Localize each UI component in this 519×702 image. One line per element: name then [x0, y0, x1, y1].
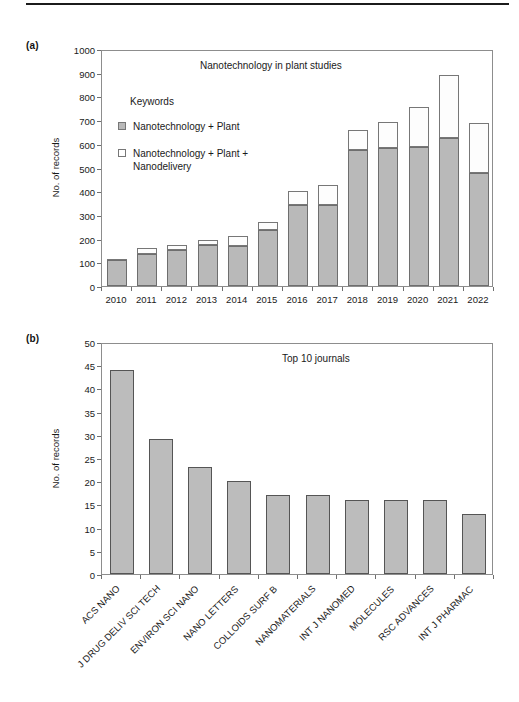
- panel-a-chart-title: Nanotechnology in plant studies: [200, 60, 342, 71]
- panel-a-y-tick-mark: [97, 121, 101, 122]
- panel-b-bar: [266, 495, 290, 574]
- panel-b-y-tick-label: 10: [55, 523, 95, 534]
- panel-a-y-tick-mark: [97, 169, 101, 170]
- panel-b-y-tick-label: 50: [55, 338, 95, 349]
- panel-b-y-tick-mark: [97, 413, 101, 414]
- panel-b-y-tick-mark: [97, 459, 101, 460]
- panel-a-bar: [378, 122, 398, 286]
- panel-a-bar: [137, 248, 157, 286]
- panel-b-y-tick-label: 35: [55, 407, 95, 418]
- panel-b-x-tick-mark: [219, 575, 220, 579]
- panel-b-x-tick-mark: [297, 575, 298, 579]
- top-horizontal-rule: [26, 3, 509, 5]
- panel-b-y-tick-mark: [97, 529, 101, 530]
- panel-a-bar-segment-plant: [137, 254, 157, 286]
- panel-a-x-tick-label: 2020: [407, 294, 428, 305]
- legend-item-nanotech-plant: Nanotechnology + Plant: [118, 120, 348, 133]
- panel-a-bar: [318, 185, 338, 286]
- panel-a-bar-segment-nanodelivery: [378, 122, 398, 148]
- panel-a-x-tick-label: 2012: [166, 294, 187, 305]
- panel-b-plot-area: Top 10 journals: [101, 343, 493, 575]
- panel-a-y-tick-mark: [97, 263, 101, 264]
- panel-b-bar: [462, 514, 486, 574]
- panel-b-bar: [188, 467, 212, 574]
- panel-b-y-tick-label: 15: [55, 500, 95, 511]
- panel-a-y-tick-mark: [97, 216, 101, 217]
- panel-a-y-tick-label: 900: [55, 68, 95, 79]
- panel-a-y-tick-mark: [97, 50, 101, 51]
- panel-b-bar: [306, 495, 330, 574]
- panel-a-bar: [409, 107, 429, 286]
- panel-b-x-tick-label: ENVIRON SCI NANO: [128, 583, 201, 656]
- panel-a-x-tick-label: 2011: [136, 294, 156, 305]
- panel-a-y-tick-mark: [97, 192, 101, 193]
- panel-a-x-tick-label: 2017: [317, 294, 338, 305]
- panel-a-bar-segment-plant: [439, 138, 459, 286]
- panel-a-x-tick-label: 2022: [467, 294, 488, 305]
- panel-a-y-tick-label: 800: [55, 92, 95, 103]
- panel-a-x-tick-label: 2018: [347, 294, 368, 305]
- panel-a-y-tick-label: 600: [55, 139, 95, 150]
- panel-a-y-tick-mark: [97, 240, 101, 241]
- panel-a-x-tick-mark: [222, 287, 223, 291]
- panel-a-bar: [228, 236, 248, 286]
- panel-b-y-tick-mark: [97, 366, 101, 367]
- panel-a-bar: [439, 75, 459, 286]
- panel-a-y-tick-label: 300: [55, 210, 95, 221]
- panel-a-bar: [107, 259, 127, 286]
- panel-a-bar-segment-plant: [409, 147, 429, 286]
- panel-a-bar: [167, 245, 187, 286]
- panel-b-y-tick-label: 30: [55, 430, 95, 441]
- legend-swatch-empty-icon: [118, 149, 126, 157]
- legend-item-label: Nanotechnology + Plant: [133, 120, 239, 133]
- panel-a-x-tick-mark: [463, 287, 464, 291]
- panel-a-bar-segment-nanodelivery: [348, 130, 368, 150]
- panel-a-x-tick-mark: [342, 287, 343, 291]
- panel-a-y-tick-mark: [97, 97, 101, 98]
- panel-b-y-tick-mark: [97, 482, 101, 483]
- panel-b-y-tick-label: 25: [55, 454, 95, 465]
- panel-a-bar-segment-plant: [228, 246, 248, 286]
- legend-item-label: Nanotechnology + Plant + Nanodelivery: [133, 147, 283, 173]
- panel-b-x-tick-mark: [140, 575, 141, 579]
- panel-b-y-tick-label: 40: [55, 384, 95, 395]
- panel-a-bar-segment-plant: [288, 205, 308, 286]
- panel-a-bar: [258, 222, 278, 286]
- panel-a-x-tick-mark: [131, 287, 132, 291]
- panel-b-y-tick-label: 5: [55, 546, 95, 557]
- panel-b-y-tick-mark: [97, 505, 101, 506]
- panel-a-x-tick-label: 2014: [226, 294, 247, 305]
- panel-b-bar: [423, 500, 447, 574]
- panel-b-y-tick-mark: [97, 552, 101, 553]
- panel-b-y-tick-mark: [97, 343, 101, 344]
- panel-b-y-tick-label: 45: [55, 361, 95, 372]
- panel-a-x-tick-label: 2021: [437, 294, 458, 305]
- panel-a-bar-segment-plant: [469, 173, 489, 286]
- panel-a-y-tick-mark: [97, 74, 101, 75]
- panel-a-y-tick-label: 500: [55, 163, 95, 174]
- panel-a-bar-segment-nanodelivery: [137, 248, 157, 255]
- panel-b-bar: [345, 500, 369, 574]
- panel-a-x-tick-label: 2013: [196, 294, 217, 305]
- panel-a-x-tick-mark: [433, 287, 434, 291]
- panel-a-x-tick-label: 2010: [105, 294, 126, 305]
- panel-a-legend: Keywords Nanotechnology + Plant Nanotech…: [118, 96, 348, 187]
- panel-a-bar-segment-nanodelivery: [469, 123, 489, 173]
- panel-a-y-tick-mark: [97, 145, 101, 146]
- panel-a-y-tick-label: 200: [55, 234, 95, 245]
- panel-a-bar-segment-plant: [258, 230, 278, 286]
- panel-b-bar: [384, 500, 408, 574]
- panel-a-x-tick-label: 2019: [377, 294, 398, 305]
- panel-b-x-tick-mark: [101, 575, 102, 579]
- panel-a-y-tick-label: 400: [55, 187, 95, 198]
- panel-a-bar: [288, 191, 308, 286]
- panel-b-bar: [149, 439, 173, 574]
- panel-b-label: (b): [26, 333, 39, 344]
- panel-a-x-tick-mark: [101, 287, 102, 291]
- panel-a-y-tick-label: 700: [55, 116, 95, 127]
- panel-a-bar-segment-nanodelivery: [318, 185, 338, 205]
- panel-a-bar-segment-plant: [318, 205, 338, 286]
- panel-a-bar-segment-plant: [348, 150, 368, 286]
- legend-item-nanotech-plant-nanodelivery: Nanotechnology + Plant + Nanodelivery: [118, 147, 348, 173]
- panel-a-x-tick-mark: [312, 287, 313, 291]
